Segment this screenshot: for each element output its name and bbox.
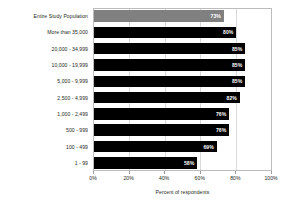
bar-row: 1,000 - 2,49976% <box>0 106 298 122</box>
bar: 58% <box>94 157 197 169</box>
bar-value-label: 82% <box>227 95 240 101</box>
bar-row: 20,000 - 34,99985% <box>0 41 298 57</box>
x-tick-mark <box>200 171 201 174</box>
bar-value-label: 85% <box>232 46 245 52</box>
x-tick-mark <box>93 171 94 174</box>
x-tick-mark <box>271 171 272 174</box>
category-label: 2,500 - 4,999 <box>0 95 88 101</box>
x-tick-label: 20% <box>123 175 133 181</box>
bar: 76% <box>94 108 229 120</box>
bar-track: 76% <box>94 122 272 138</box>
category-label: 10,000 - 19,999 <box>0 62 88 68</box>
bar: 76% <box>94 124 229 136</box>
bar-value-label: 85% <box>232 78 245 84</box>
x-tick-mark <box>164 171 165 174</box>
x-tick-label: 0% <box>89 175 96 181</box>
x-tick-mark <box>235 171 236 174</box>
bar-track: 58% <box>94 155 272 171</box>
bar-rows: Entire Study Population73%More than 35,0… <box>0 8 298 171</box>
x-tick-mark <box>129 171 130 174</box>
category-label: 20,000 - 34,999 <box>0 46 88 52</box>
bar-row: 500 - 99976% <box>0 122 298 138</box>
bar-track: 85% <box>94 57 272 73</box>
bar: 85% <box>94 43 245 55</box>
bar-track: 80% <box>94 24 272 40</box>
bar-value-label: 76% <box>216 127 229 133</box>
bar-track: 85% <box>94 41 272 57</box>
category-label: 500 - 999 <box>0 127 88 133</box>
x-tick-label: 80% <box>230 175 240 181</box>
category-label: 100 - 499 <box>0 144 88 150</box>
x-tick-label: 100% <box>264 175 277 181</box>
bar-value-label: 80% <box>223 29 236 35</box>
bar-track: 82% <box>94 90 272 106</box>
category-label: More than 35,000 <box>0 29 88 35</box>
bar: 80% <box>94 27 236 39</box>
bar: 69% <box>94 141 217 153</box>
bar-row: Entire Study Population73% <box>0 8 298 24</box>
bar-value-label: 69% <box>203 144 216 150</box>
bar: 82% <box>94 92 240 104</box>
bar-track: 69% <box>94 138 272 154</box>
bar-track: 76% <box>94 106 272 122</box>
bar-row: 1 - 9958% <box>0 155 298 171</box>
bar: 85% <box>94 59 245 71</box>
bar-row: 5,000 - 9,99985% <box>0 73 298 89</box>
bar-value-label: 76% <box>216 111 229 117</box>
category-label: 5,000 - 9,999 <box>0 78 88 84</box>
bar-value-label: 58% <box>184 160 197 166</box>
bar-row: 2,500 - 4,99982% <box>0 90 298 106</box>
category-label: 1,000 - 2,499 <box>0 111 88 117</box>
category-label: 1 - 99 <box>0 160 88 166</box>
bar-chart: Entire Study Population73%More than 35,0… <box>0 0 298 210</box>
bar-row: 10,000 - 19,99985% <box>0 57 298 73</box>
bar-row: More than 35,00080% <box>0 24 298 40</box>
x-tick-label: 40% <box>159 175 169 181</box>
x-tick-label: 60% <box>195 175 205 181</box>
bar: 85% <box>94 76 245 88</box>
bar-row: 100 - 49969% <box>0 138 298 154</box>
bar: 73% <box>94 10 224 22</box>
bar-value-label: 73% <box>211 13 224 19</box>
category-label: Entire Study Population <box>0 13 88 19</box>
x-axis-title: Percent of respondents <box>93 189 272 195</box>
bar-track: 73% <box>94 8 272 24</box>
bar-track: 85% <box>94 73 272 89</box>
bar-value-label: 85% <box>232 62 245 68</box>
x-axis: 0%20%40%60%80%100% <box>93 171 272 185</box>
